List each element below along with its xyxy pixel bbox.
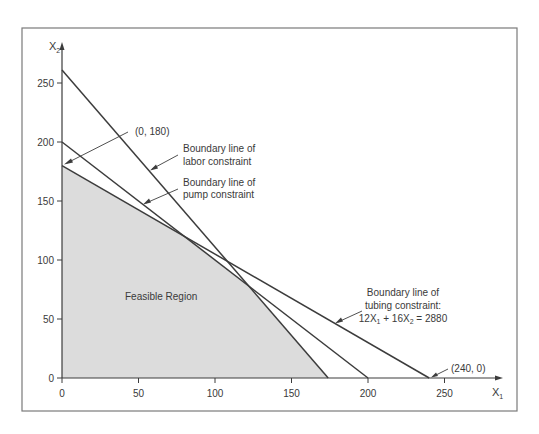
svg-text:200: 200 (360, 388, 377, 399)
labor-label-2: labor constraint (183, 156, 252, 167)
svg-text:50: 50 (133, 388, 145, 399)
feasible-region-label: Feasible Region (125, 291, 197, 302)
svg-text:150: 150 (283, 388, 300, 399)
tubing-label: Boundary line of tubing constraint: 12X1… (359, 287, 448, 325)
svg-text:150: 150 (37, 196, 54, 207)
svg-text:0: 0 (59, 388, 65, 399)
svg-text:0: 0 (48, 373, 54, 384)
svg-text:50: 50 (43, 314, 55, 325)
pump-label: Boundary line of (183, 177, 255, 188)
point-label-0-180: (0, 180) (135, 126, 169, 137)
point-label-240-0: (240, 0) (451, 363, 485, 374)
pump-label-2: pump constraint (183, 189, 254, 200)
svg-text:tubing constraint:: tubing constraint: (365, 300, 441, 311)
chart: 0 50 100 150 200 250 0 50 100 150 200 25… (0, 0, 539, 434)
svg-text:250: 250 (37, 78, 54, 89)
svg-text:250: 250 (436, 388, 453, 399)
svg-text:Boundary line of: Boundary line of (367, 287, 439, 298)
svg-text:100: 100 (37, 255, 54, 266)
svg-text:12X1 + 16X2 = 2880: 12X1 + 16X2 = 2880 (359, 313, 448, 325)
svg-text:100: 100 (207, 388, 224, 399)
labor-label: Boundary line of (183, 143, 255, 154)
svg-text:200: 200 (37, 137, 54, 148)
